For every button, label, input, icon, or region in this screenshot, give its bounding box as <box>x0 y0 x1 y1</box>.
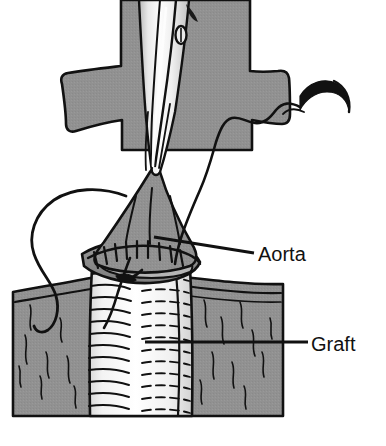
suture-needle <box>300 81 349 112</box>
graft-label: Graft <box>311 333 356 355</box>
clamp-rivet <box>176 26 187 44</box>
aorta-label: Aorta <box>258 243 307 265</box>
illustration-canvas: Aorta Graft <box>0 0 386 446</box>
surgical-illustration-figure: Aorta Graft <box>0 0 386 446</box>
